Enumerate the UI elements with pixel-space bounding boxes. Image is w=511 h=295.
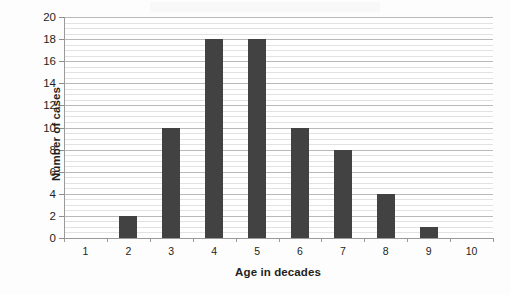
x-axis-tick (450, 238, 451, 242)
x-axis-tick (236, 238, 237, 242)
x-axis-tick-label: 2 (106, 245, 150, 257)
bar-chart-figure: 02468101214161820 12345678910 Number of … (0, 0, 511, 295)
x-axis-tick (193, 238, 194, 242)
x-axis-title: Age in decades (63, 266, 493, 278)
x-axis-tick (150, 238, 151, 242)
bar (334, 150, 352, 238)
x-axis-tick (493, 238, 494, 242)
x-axis-tick (364, 238, 365, 242)
bar (248, 39, 266, 238)
y-axis-tick-labels: 02468101214161820 (8, 0, 56, 295)
x-axis-tick-label: 10 (450, 245, 494, 257)
x-axis-tick (407, 238, 408, 242)
y-axis-title: Number of cases (50, 34, 62, 234)
bar (119, 216, 137, 238)
x-axis-tick (107, 238, 108, 242)
x-axis-tick-label: 4 (192, 245, 236, 257)
x-axis-tick-label: 6 (278, 245, 322, 257)
x-axis-tick-label: 8 (364, 245, 408, 257)
y-axis-tick-label: 20 (16, 11, 56, 23)
x-axis-tick (279, 238, 280, 242)
bar (205, 39, 223, 238)
x-axis-tick-label: 5 (235, 245, 279, 257)
y-axis-tick (59, 17, 64, 18)
scan-artifact (150, 2, 380, 12)
bar (291, 128, 309, 239)
bar (377, 194, 395, 238)
x-axis-tick-label: 3 (149, 245, 193, 257)
bar (162, 128, 180, 239)
bar (420, 227, 438, 238)
bars-group (64, 17, 493, 238)
x-axis-tick-label: 1 (63, 245, 107, 257)
x-axis-tick (64, 238, 65, 242)
x-axis-tick-label: 7 (321, 245, 365, 257)
x-axis-tick-label: 9 (407, 245, 451, 257)
y-axis-line (64, 17, 65, 239)
x-axis-tick (321, 238, 322, 242)
